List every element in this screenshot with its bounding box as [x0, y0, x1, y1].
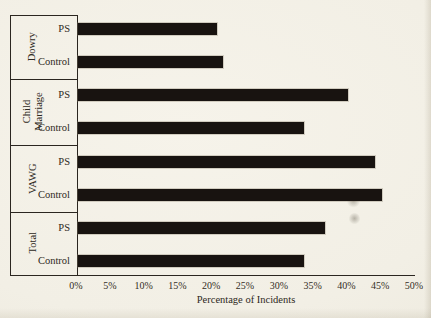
- bar-total-control: [78, 255, 304, 267]
- bar-label-vawg-control: Control: [0, 188, 70, 202]
- x-tick-label-30-: 30%: [270, 280, 288, 291]
- x-tick-label-15-: 15%: [168, 280, 186, 291]
- bar-label-child-marriage-control: Control: [0, 121, 70, 135]
- bar-label-child-marriage-ps: PS: [0, 88, 70, 102]
- bar-child-marriage-ps: [78, 89, 348, 101]
- bar-dowry-ps: [78, 23, 217, 35]
- bar-label-total-control: Control: [0, 254, 70, 268]
- bar-total-ps: [78, 222, 325, 234]
- x-tick-label-10-: 10%: [134, 280, 152, 291]
- scanned-bar-chart-figure: Percentage of Incidents DowryPSControlCh…: [0, 0, 431, 318]
- x-tick-label-50-: 50%: [405, 280, 423, 291]
- x-tick-label-20-: 20%: [202, 280, 220, 291]
- y-axis-line: [77, 15, 78, 275]
- bar-vawg-ps: [78, 156, 375, 168]
- x-tick-label-40-: 40%: [337, 280, 355, 291]
- plot-area: Percentage of Incidents DowryPSControlCh…: [0, 0, 431, 318]
- x-axis-title: Percentage of Incidents: [197, 294, 296, 305]
- x-tick-label-0-: 0%: [69, 280, 82, 291]
- x-tick-label-45-: 45%: [371, 280, 389, 291]
- bar-child-marriage-control: [78, 122, 304, 134]
- bar-vawg-control: [78, 189, 382, 201]
- scan-smudge: [349, 213, 360, 225]
- x-tick-label-25-: 25%: [236, 280, 254, 291]
- bar-dowry-control: [78, 56, 223, 68]
- bar-label-total-ps: PS: [0, 221, 70, 235]
- x-tick-label-35-: 35%: [303, 280, 321, 291]
- bar-label-dowry-control: Control: [0, 55, 70, 69]
- bar-label-dowry-ps: PS: [0, 22, 70, 36]
- x-tick-label-5-: 5%: [103, 280, 116, 291]
- x-axis-line: [10, 275, 415, 277]
- bar-label-vawg-ps: PS: [0, 155, 70, 169]
